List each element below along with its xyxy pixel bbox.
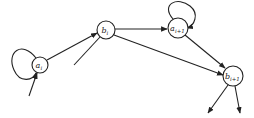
edge-a-i-to-b-i bbox=[47, 33, 97, 60]
node-a-i: a i bbox=[32, 57, 48, 73]
node-subscript: i+1 bbox=[175, 28, 185, 34]
node-subscript: i bbox=[41, 65, 43, 71]
node-b-i1: b i+1 bbox=[223, 66, 243, 86]
edge-b-i1-to-external-2 bbox=[235, 86, 240, 113]
edge-b-i-to-b-i1 bbox=[114, 35, 223, 75]
node-a-i1: a i+1 bbox=[168, 18, 188, 38]
node-subscript: i bbox=[107, 30, 109, 36]
node-subscript: i+1 bbox=[230, 76, 240, 82]
edge-b-i1-to-external-1 bbox=[208, 85, 228, 113]
graph-diagram: a i b i a i+1 b i+1 bbox=[0, 0, 254, 118]
node-b-i: b i bbox=[97, 21, 115, 39]
edge-external-to-b-i bbox=[74, 37, 100, 65]
